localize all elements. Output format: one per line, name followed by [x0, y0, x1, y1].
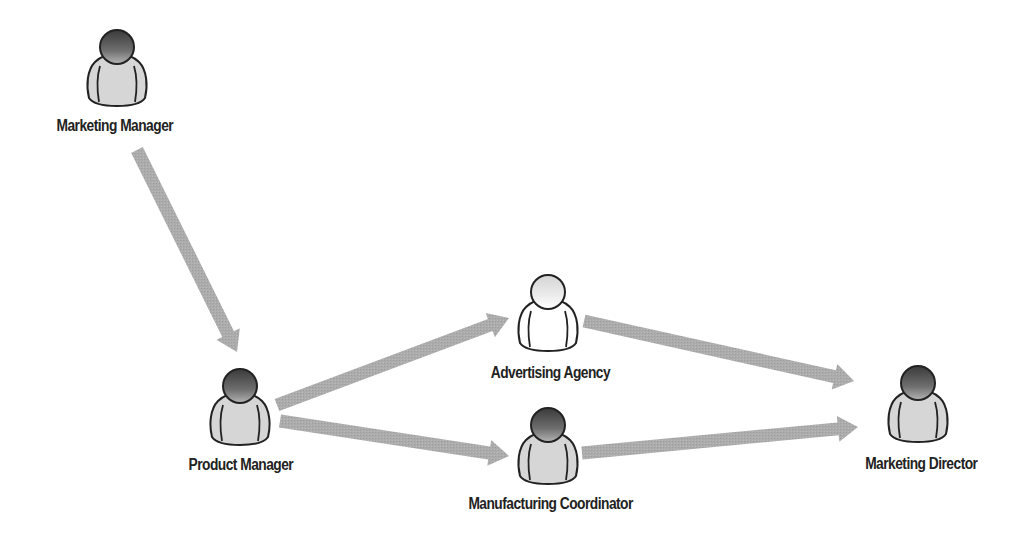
person-icon [210, 369, 269, 445]
arrow-manufacturing-coordinator-to-marketing-director [581, 416, 858, 460]
node-label-marketing-manager: Marketing Manager [56, 117, 173, 135]
node-marketing-manager [87, 30, 146, 106]
person-icon [87, 30, 146, 106]
person-icon [888, 366, 947, 442]
arrow-marketing-manager-to-product-manager [131, 147, 240, 352]
person-head [901, 366, 935, 400]
node-label-product-manager: Product Manager [189, 456, 294, 474]
person-head [531, 275, 565, 309]
node-label-manufacturing-coordinator: Manufacturing Coordinator [468, 495, 632, 513]
node-advertising-agency [518, 275, 577, 351]
arrow-advertising-agency-to-marketing-director [583, 315, 854, 390]
node-manufacturing-coordinator [518, 408, 577, 484]
nodes-layer [87, 30, 947, 484]
person-icon [518, 408, 577, 484]
person-head [223, 369, 257, 403]
arrow-product-manager-to-manufacturing-coordinator [279, 415, 509, 466]
node-label-advertising-agency: Advertising Agency [490, 364, 609, 382]
node-marketing-director [888, 366, 947, 442]
person-head [100, 30, 134, 64]
node-product-manager [210, 369, 269, 445]
person-head [531, 408, 565, 442]
arrow-product-manager-to-advertising-agency [275, 313, 509, 411]
person-icon [518, 275, 577, 351]
node-label-marketing-director: Marketing Director [865, 455, 977, 473]
